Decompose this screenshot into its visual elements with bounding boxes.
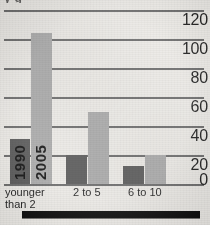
ytick-label-100: 100: [182, 41, 208, 57]
ytick-label-60: 60: [191, 99, 208, 115]
bar-label-2005: 2005: [33, 136, 48, 180]
bar-1990-2-to-5: [66, 155, 87, 184]
bar-2005-6-to-10: [145, 155, 166, 184]
footer-black-bar: [22, 211, 200, 218]
xtick-label-2-to-5: 2 to 5: [73, 186, 119, 198]
bar-1990-6-to-10: [123, 166, 144, 184]
xtick-label-6-to-10: 6 to 10: [128, 186, 176, 198]
ytick-label-40: 40: [191, 128, 208, 144]
bar-2005-2-to-5: [88, 112, 109, 184]
xtick-label-younger-than-2: younger than 2: [5, 186, 67, 210]
bar-label-1990: 1990: [12, 136, 27, 180]
ytick-label-80: 80: [191, 70, 208, 86]
ytick-label-120: 120: [182, 12, 208, 28]
gridline-120: [4, 10, 204, 12]
bar-chart-plot-area: 120 100 80 60 40 20 0 1990 2005: [0, 0, 210, 190]
